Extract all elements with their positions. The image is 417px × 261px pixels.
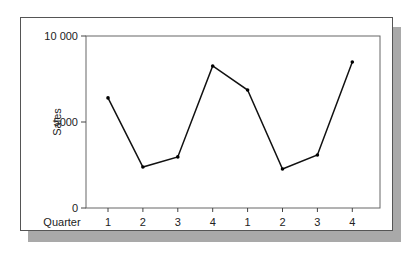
- x-tick-label: 4: [349, 216, 355, 228]
- data-point: [316, 153, 320, 157]
- y-tick-label: 10 000: [44, 30, 78, 42]
- data-point: [141, 165, 145, 169]
- data-point: [176, 155, 180, 159]
- x-axis-label: Quarter: [43, 216, 81, 228]
- data-point: [246, 88, 250, 92]
- x-axis: 12341234: [105, 208, 355, 228]
- line-chart: 0500010 000 12341234 Sales Quarter: [0, 0, 417, 261]
- x-tick-label: 3: [175, 216, 181, 228]
- y-axis-label: Sales: [51, 108, 63, 136]
- data-point: [351, 60, 355, 64]
- data-point: [281, 167, 285, 171]
- x-tick-label: 2: [140, 216, 146, 228]
- x-tick-label: 1: [245, 216, 251, 228]
- x-tick-label: 2: [279, 216, 285, 228]
- x-tick-label: 1: [105, 216, 111, 228]
- x-tick-label: 4: [210, 216, 216, 228]
- y-tick-label: 0: [72, 202, 78, 214]
- data-point: [211, 64, 215, 68]
- plot-area: [86, 36, 380, 208]
- data-point: [106, 96, 110, 100]
- x-tick-label: 3: [314, 216, 320, 228]
